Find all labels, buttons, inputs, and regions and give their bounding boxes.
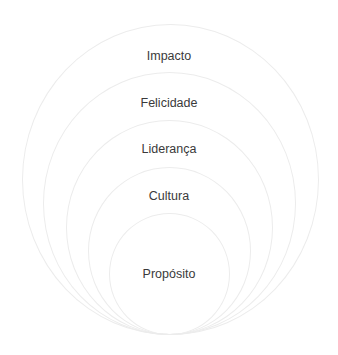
nested-circles-diagram: Impacto Felicidade Liderança Cultura Pro… <box>0 0 338 355</box>
label-proposito: Propósito <box>0 267 338 281</box>
label-felicidade: Felicidade <box>0 96 338 110</box>
label-cultura: Cultura <box>0 189 338 203</box>
label-impacto: Impacto <box>0 49 338 63</box>
label-lideranca: Liderança <box>0 142 338 156</box>
